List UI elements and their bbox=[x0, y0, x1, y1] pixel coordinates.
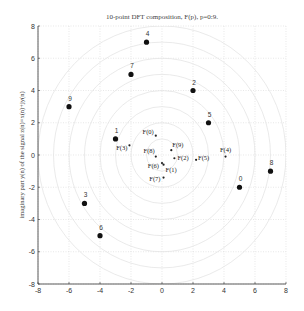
signal-point-label: 5 bbox=[208, 111, 212, 118]
y-tick-label: 0 bbox=[31, 152, 35, 159]
signal-point bbox=[66, 104, 71, 109]
circle bbox=[69, 58, 255, 252]
signal-point bbox=[206, 120, 211, 125]
y-tick-label: 6 bbox=[31, 55, 35, 62]
signal-point-label: 6 bbox=[99, 224, 103, 231]
x-tick-label: -2 bbox=[128, 287, 134, 294]
data-points: 0123456789F(0)F(1)F(2)F(3)F(4)F(5)F(6)F(… bbox=[66, 30, 273, 238]
signal-point bbox=[237, 185, 242, 190]
y-tick-label: -2 bbox=[29, 184, 35, 191]
signal-point-label: 9 bbox=[68, 95, 72, 102]
signal-point-label: 2 bbox=[192, 79, 196, 86]
dft-point-label: F(4) bbox=[220, 146, 231, 154]
dft-point-label: F(6) bbox=[148, 162, 159, 170]
signal-point bbox=[113, 136, 118, 141]
dft-point bbox=[155, 135, 157, 137]
dft-point-label: F(8) bbox=[144, 147, 155, 155]
signal-point bbox=[268, 169, 273, 174]
y-tick-label: -6 bbox=[29, 248, 35, 255]
dft-point-label: F(5) bbox=[198, 154, 209, 162]
y-tick-label: -4 bbox=[29, 216, 35, 223]
signal-point bbox=[190, 88, 195, 93]
signal-point-label: 3 bbox=[84, 191, 88, 198]
dft-point bbox=[195, 159, 197, 161]
dft-point-label: F(7) bbox=[149, 175, 160, 183]
grid bbox=[38, 26, 286, 284]
x-tick-label: -6 bbox=[66, 287, 72, 294]
x-tick-label: 0 bbox=[160, 287, 164, 294]
y-tick-label: 2 bbox=[31, 119, 35, 126]
signal-point-label: 8 bbox=[270, 159, 274, 166]
signal-point bbox=[128, 72, 133, 77]
dft-point-label: F(1) bbox=[166, 166, 177, 174]
signal-point bbox=[82, 201, 87, 206]
dft-point bbox=[155, 156, 157, 158]
chart-title: 10-point DFT composition, F(p), p=0:9. bbox=[106, 13, 218, 21]
y-tick-label: 8 bbox=[31, 23, 35, 30]
signal-point bbox=[144, 40, 149, 45]
signal-point-label: 4 bbox=[146, 30, 150, 37]
dft-point bbox=[162, 176, 164, 178]
signal-point bbox=[97, 233, 102, 238]
y-axis-label: imaginary part y(n) of the signal z(n)=x… bbox=[18, 91, 26, 218]
x-tick-label: 8 bbox=[284, 287, 288, 294]
y-tick-label: 4 bbox=[31, 87, 35, 94]
dft-point bbox=[224, 156, 226, 158]
dft-chart: -8-6-4-202468-8-6-4-202468 0123456789F(0… bbox=[0, 0, 304, 311]
y-tick-label: -8 bbox=[29, 281, 35, 288]
dft-point bbox=[173, 157, 175, 159]
dft-point-label: F(9) bbox=[172, 141, 183, 149]
dft-point bbox=[170, 149, 172, 151]
dft-point-label: F(0) bbox=[143, 128, 154, 136]
dft-point-label: F(2) bbox=[177, 154, 188, 162]
signal-point-label: 0 bbox=[239, 175, 243, 182]
dft-point bbox=[161, 162, 163, 164]
x-tick-label: -4 bbox=[97, 287, 103, 294]
dft-point-label: F(3) bbox=[116, 144, 127, 152]
signal-point-label: 7 bbox=[130, 62, 134, 69]
dft-point bbox=[162, 164, 164, 166]
dft-point bbox=[128, 144, 130, 146]
x-tick-label: 4 bbox=[222, 287, 226, 294]
signal-point-label: 1 bbox=[115, 127, 119, 134]
x-tick-label: 2 bbox=[191, 287, 195, 294]
x-tick-label: -8 bbox=[35, 287, 41, 294]
x-tick-label: 6 bbox=[253, 287, 257, 294]
